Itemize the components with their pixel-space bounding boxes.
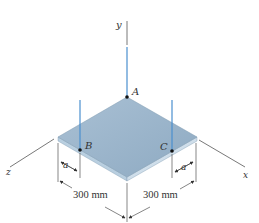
dim-300-left-a [60,181,72,188]
label-B: B [84,140,92,151]
dim-300-right-label: 300 mm [143,189,178,200]
point-B [78,148,82,152]
z-axis [10,139,54,167]
dim-300-right-a [129,207,150,218]
point-C [170,149,174,153]
point-A [125,95,129,99]
label-A: A [131,86,139,97]
dim-a-right-label: a [181,162,186,172]
x-axis-label: x [243,170,248,180]
dim-a-left-label: a [63,160,68,170]
plate-top [58,97,197,177]
x-axis [199,140,245,167]
label-C: C [160,141,168,152]
z-axis-label: z [5,167,11,177]
dim-300-left-b [105,207,125,218]
dim-300-left-label: 300 mm [73,189,108,200]
square-plate-diagram: y z x A B C a a 300 mm 300 mm [0,0,259,223]
y-axis-label: y [115,19,122,30]
dim-300-right-b [180,181,194,189]
